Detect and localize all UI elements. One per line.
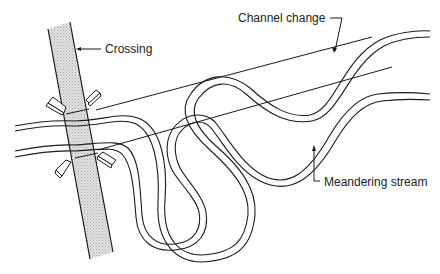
meandering-stream-label: Meandering stream — [324, 175, 427, 189]
stream-crossing-diagram — [0, 0, 440, 274]
channel-change-label: Channel change — [238, 11, 325, 25]
crossing-label: Crossing — [105, 42, 152, 56]
road-crossing — [48, 22, 113, 259]
